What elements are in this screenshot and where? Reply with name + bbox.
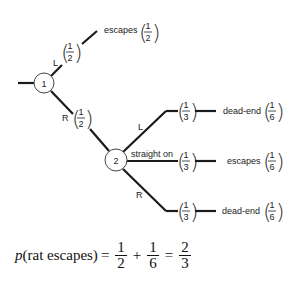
edge-node2-right-a xyxy=(123,169,166,211)
outcome-fraction-node2-right: ( 1 6 ) xyxy=(263,199,285,224)
equation-arg: (rat escapes) xyxy=(23,247,98,264)
svg-text:1: 1 xyxy=(269,100,274,110)
edge-node1-right-b xyxy=(90,129,109,151)
equation-equals-2: = xyxy=(165,247,173,264)
equation-result: 2 3 xyxy=(179,240,191,271)
branch-label-node1-right: R xyxy=(62,113,69,123)
svg-text:2: 2 xyxy=(113,156,118,166)
svg-text:): ) xyxy=(74,40,83,65)
equation-p: p xyxy=(15,247,23,264)
outcome-fraction-node2-left: ( 1 6 ) xyxy=(263,99,285,124)
edge-node2-left-a xyxy=(123,111,166,152)
svg-text:6: 6 xyxy=(269,212,274,222)
svg-text:1: 1 xyxy=(41,79,46,89)
equation-equals-1: = xyxy=(101,247,109,264)
outcome-fraction-node1-left: ( 1 2 ) xyxy=(139,20,161,45)
outcome-label-node2-right: dead-end xyxy=(222,206,260,216)
svg-text:3: 3 xyxy=(183,212,188,222)
outcome-label-node2-left: dead-end xyxy=(223,106,261,116)
equation-plus: + xyxy=(133,247,141,264)
svg-text:3: 3 xyxy=(183,162,188,172)
svg-text:): ) xyxy=(276,99,285,124)
svg-text:1: 1 xyxy=(183,200,188,210)
fraction-node1-left: ( 1 2 ) xyxy=(61,40,83,65)
equation-term-2: 1 6 xyxy=(147,240,159,271)
svg-text:1: 1 xyxy=(78,107,83,117)
node-2: 2 xyxy=(105,149,127,171)
svg-text:2: 2 xyxy=(67,53,72,63)
svg-text:1: 1 xyxy=(67,41,72,51)
equation-term-1: 1 2 xyxy=(115,240,127,271)
edge-node1-right-a xyxy=(51,91,73,114)
svg-text:2: 2 xyxy=(78,119,83,129)
branch-label-node2-right: R xyxy=(136,190,143,200)
svg-text:1: 1 xyxy=(183,100,188,110)
svg-text:3: 3 xyxy=(183,112,188,122)
svg-text:6: 6 xyxy=(269,112,274,122)
outcome-fraction-node2-straight: ( 1 6 ) xyxy=(263,149,285,174)
outcome-label-node2-straight: escapes xyxy=(227,156,261,166)
svg-text:): ) xyxy=(276,199,285,224)
svg-text:): ) xyxy=(276,149,285,174)
svg-text:1: 1 xyxy=(269,200,274,210)
svg-text:): ) xyxy=(85,106,94,131)
probability-equation: p (rat escapes) = 1 2 + 1 6 = 2 3 xyxy=(15,240,194,271)
svg-text:): ) xyxy=(152,20,161,45)
branch-label-node1-left: L xyxy=(53,58,58,68)
edge-node1-left-b xyxy=(82,31,97,44)
branch-label-node2-straight: straight on xyxy=(131,149,173,159)
svg-text:6: 6 xyxy=(269,162,274,172)
outcome-label-node1-left: escapes xyxy=(104,25,138,35)
branch-label-node2-left: L xyxy=(138,122,143,132)
svg-text:1: 1 xyxy=(269,150,274,160)
svg-text:2: 2 xyxy=(145,33,150,43)
fraction-node1-right: ( 1 2 ) xyxy=(72,106,94,131)
svg-text:1: 1 xyxy=(145,21,150,31)
svg-text:1: 1 xyxy=(183,150,188,160)
node-1: 1 xyxy=(34,73,54,93)
